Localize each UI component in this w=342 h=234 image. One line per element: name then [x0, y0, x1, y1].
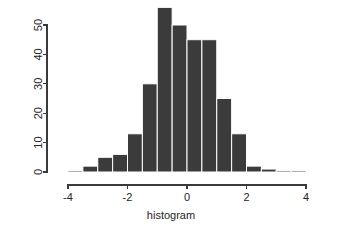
histogram-bar — [187, 40, 202, 172]
histogram-bar — [276, 171, 291, 172]
histogram-bar — [113, 154, 128, 172]
y-axis-tick-label: 40 — [32, 48, 44, 60]
histogram-bar — [172, 25, 187, 172]
histogram-bar — [68, 171, 83, 172]
histogram-bar — [217, 99, 232, 173]
x-axis-tick-label: -2 — [123, 191, 133, 203]
histogram-bar — [157, 7, 172, 172]
x-axis — [68, 185, 306, 189]
y-axis-tick-labels: 01020304050 — [32, 19, 44, 175]
y-axis — [43, 25, 47, 172]
y-axis-tick-label: 20 — [32, 107, 44, 119]
y-axis-line — [43, 25, 47, 172]
x-axis-tick-label: -4 — [63, 191, 73, 203]
histogram-bar — [247, 166, 262, 172]
y-axis-tick-label: 10 — [32, 136, 44, 148]
histogram-bar — [261, 169, 276, 172]
x-axis-tick-label: 4 — [303, 191, 309, 203]
histogram-bar — [202, 40, 217, 172]
histogram-bar — [128, 134, 143, 172]
y-axis-tick-label: 50 — [32, 19, 44, 31]
histogram-bar — [142, 84, 157, 172]
y-axis-tick-label: 0 — [32, 169, 44, 175]
histogram-bar — [83, 166, 98, 172]
histogram-bar — [291, 171, 306, 172]
x-axis-tick-label: 0 — [184, 191, 190, 203]
bars-group — [68, 7, 306, 172]
x-axis-title: histogram — [147, 209, 195, 221]
histogram-plot: 01020304050 -4-2024 histogram — [0, 0, 342, 234]
histogram-bar — [98, 157, 113, 172]
y-axis-tick-label: 30 — [32, 78, 44, 90]
x-axis-tick-labels: -4-2024 — [63, 191, 309, 203]
plot-canvas: 01020304050 -4-2024 histogram — [0, 0, 342, 234]
x-axis-tick-label: 2 — [243, 191, 249, 203]
histogram-bar — [232, 134, 247, 172]
